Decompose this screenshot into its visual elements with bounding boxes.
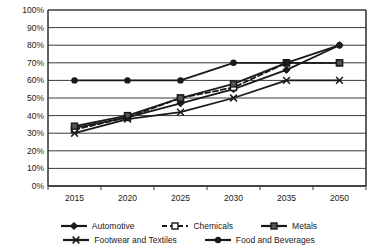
data-point-marker-dot	[231, 60, 236, 65]
y-axis-tick-label: 100%	[22, 5, 44, 15]
legend-key-dot-icon	[203, 234, 233, 246]
x-axis-tick-label: 2035	[277, 193, 296, 203]
data-point-marker-dot	[72, 78, 77, 83]
legend-label: Chemicals	[193, 221, 233, 231]
x-axis-tick-label: 2050	[330, 193, 349, 203]
legend-item-food-and-beverages[interactable]: Food and Beverages	[203, 234, 315, 246]
legend-item-footwear-and-textiles[interactable]: Footwear and Textiles	[61, 234, 177, 246]
y-axis-tick-label: 50%	[27, 93, 44, 103]
chart-legend: AutomotiveChemicalsMetalsFootwear and Te…	[0, 220, 376, 246]
data-point-marker-dot	[125, 78, 130, 83]
data-point-marker-diamond	[70, 222, 77, 229]
data-point-marker-square	[231, 81, 237, 87]
line-chart: 0%10%20%30%40%50%60%70%80%90%100%2015202…	[0, 0, 376, 249]
y-axis-tick-label: 70%	[27, 58, 44, 68]
chart-plot-area: 0%10%20%30%40%50%60%70%80%90%100%2015202…	[0, 0, 376, 210]
legend-key-diamond-icon	[59, 220, 89, 232]
y-axis-tick-label: 0%	[32, 181, 45, 191]
y-axis-tick-label: 40%	[27, 111, 44, 121]
data-point-marker-square	[337, 60, 343, 66]
legend-label: Metals	[292, 221, 317, 231]
y-axis-tick-label: 20%	[27, 146, 44, 156]
x-axis-tick-label: 2030	[224, 193, 243, 203]
x-axis-tick-label: 2020	[118, 193, 137, 203]
data-point-marker-dot	[284, 60, 289, 65]
legend-item-metals[interactable]: Metals	[259, 220, 317, 232]
x-axis-tick-label: 2025	[171, 193, 190, 203]
legend-row: AutomotiveChemicalsMetals	[59, 220, 317, 232]
legend-key-square-icon	[259, 220, 289, 232]
x-axis-tick-label: 2015	[65, 193, 84, 203]
y-axis-tick-label: 30%	[27, 128, 44, 138]
legend-item-automotive[interactable]: Automotive	[59, 220, 135, 232]
data-point-marker-dot	[215, 237, 220, 242]
data-point-marker-square	[271, 223, 277, 229]
data-point-marker-dot	[178, 78, 183, 83]
y-axis-tick-label: 60%	[27, 75, 44, 85]
legend-key-square-icon	[160, 220, 190, 232]
legend-item-chemicals[interactable]: Chemicals	[160, 220, 233, 232]
data-point-marker-dot	[337, 43, 342, 48]
legend-label: Food and Beverages	[236, 235, 315, 245]
y-axis-tick-label: 10%	[27, 163, 44, 173]
legend-key-cross-icon	[61, 234, 91, 246]
data-point-marker-square	[72, 123, 78, 129]
legend-label: Footwear and Textiles	[94, 235, 177, 245]
y-axis-tick-label: 90%	[27, 23, 44, 33]
data-point-marker-square	[172, 223, 178, 229]
y-axis-tick-label: 80%	[27, 40, 44, 50]
legend-row: Footwear and TextilesFood and Beverages	[61, 234, 314, 246]
legend-label: Automotive	[92, 221, 135, 231]
data-point-marker-square	[178, 95, 184, 101]
